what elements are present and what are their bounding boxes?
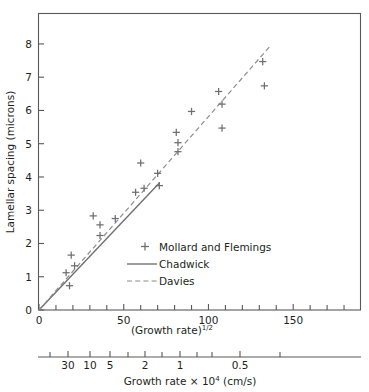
data-point-plus-icon: [96, 221, 103, 228]
secondary-tick-label: 10: [83, 359, 96, 371]
secondary-axis-ticks: [50, 351, 280, 357]
data-point-plus-icon: [261, 82, 268, 89]
data-point-plus-icon: [68, 252, 75, 259]
data-point-plus-icon: [71, 262, 78, 269]
x-axis-major-ticks: [39, 304, 293, 310]
data-point-plus-icon: [259, 58, 266, 65]
davies-trend-line: [39, 45, 271, 310]
legend-label-chadwick: Chadwick: [159, 258, 210, 270]
legend-label-mollard-and-flemings: Mollard and Flemings: [159, 241, 271, 253]
plus-marker-icon: [141, 243, 149, 251]
x-tick-label: 50: [117, 314, 130, 326]
x-tick-label: 0: [36, 314, 43, 326]
y-tick-label: 7: [25, 71, 32, 83]
secondary-axis-title: Growth rate × 104 (cm/s): [124, 375, 257, 387]
secondary-tick-label: 1: [177, 359, 184, 371]
data-point-plus-icon: [90, 212, 97, 219]
data-point-plus-icon: [173, 129, 180, 136]
x-axis-minor-ticks: [56, 305, 344, 310]
secondary-tick-label: 0.5: [232, 359, 249, 371]
y-tick-label: 5: [25, 138, 32, 150]
x-axis-title-base: (Growth rate): [131, 324, 202, 336]
figure-container: 012345678 050100150 Lamellar spacing (mi…: [0, 0, 369, 392]
data-point-plus-icon: [156, 182, 163, 189]
y-tick-label: 8: [25, 38, 32, 50]
secondary-axis-ticklabels: 30105210.5: [61, 359, 248, 371]
secondary-axis-title-tail: (cm/s): [220, 375, 257, 387]
y-tick-label: 1: [25, 271, 32, 283]
y-tick-label: 0: [25, 304, 32, 316]
x-axis-title: (Growth rate)1/2: [131, 324, 213, 336]
data-point-plus-icon: [174, 139, 181, 146]
data-point-plus-icon: [66, 282, 73, 289]
lamellar-spacing-chart: 012345678 050100150 Lamellar spacing (mi…: [0, 0, 369, 392]
data-point-plus-icon: [137, 159, 144, 166]
legend-entry-mollard-and-flemings: Mollard and Flemings: [141, 241, 271, 253]
secondary-tick-label: 2: [142, 359, 149, 371]
data-point-plus-icon: [218, 124, 225, 131]
chart-legend: Mollard and Flemings Chadwick Davies: [127, 241, 271, 287]
y-axis-title: Lamellar spacing (microns): [4, 91, 16, 234]
data-point-plus-icon: [218, 101, 225, 108]
mollard-flemings-data-points: [63, 58, 268, 289]
data-point-plus-icon: [96, 232, 103, 239]
data-point-plus-icon: [132, 189, 139, 196]
data-point-plus-icon: [112, 215, 119, 222]
data-point-plus-icon: [140, 185, 147, 192]
legend-entry-chadwick: Chadwick: [127, 258, 210, 270]
secondary-tick-label: 30: [61, 359, 74, 371]
legend-label-davies: Davies: [159, 275, 195, 287]
y-tick-label: 4: [25, 171, 32, 183]
y-tick-label: 6: [25, 104, 32, 116]
legend-entry-davies: Davies: [127, 275, 195, 287]
y-tick-label: 2: [25, 237, 32, 249]
secondary-axis-title-base: Growth rate × 10: [124, 375, 216, 387]
y-axis-ticklabels: 012345678: [25, 38, 32, 316]
secondary-tick-label: 5: [107, 359, 114, 371]
y-tick-label: 3: [25, 204, 32, 216]
data-point-plus-icon: [188, 108, 195, 115]
x-axis-title-exponent: 1/2: [202, 324, 213, 332]
x-tick-label: 150: [283, 314, 303, 326]
y-axis-ticks: [39, 44, 44, 310]
data-point-plus-icon: [215, 88, 222, 95]
